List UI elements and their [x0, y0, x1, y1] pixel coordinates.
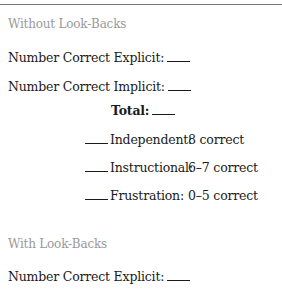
- field-label: Number Correct Explicit:: [8, 269, 164, 284]
- blank-answer-line[interactable]: [152, 103, 175, 115]
- total-label: Total:: [111, 103, 149, 118]
- level-criteria: 6–7 correct: [188, 160, 258, 175]
- top-divider: [0, 4, 282, 5]
- level-name: Instructional:: [110, 160, 188, 176]
- blank-answer-line[interactable]: [167, 50, 190, 62]
- blank-answer-line[interactable]: [167, 269, 190, 281]
- checkbox-line[interactable]: [85, 188, 108, 200]
- field-label: Number Correct Explicit:: [8, 50, 164, 65]
- level-criteria: 0–5 correct: [188, 188, 258, 203]
- field-implicit-without: Number Correct Implicit:: [8, 79, 191, 95]
- field-explicit-without: Number Correct Explicit:: [8, 50, 190, 66]
- field-explicit-with: Number Correct Explicit:: [8, 269, 190, 285]
- blank-answer-line[interactable]: [168, 79, 191, 91]
- section-heading-with-lookbacks: With Look-Backs: [8, 236, 107, 252]
- level-criteria: 8 correct: [188, 132, 244, 147]
- checkbox-line[interactable]: [85, 160, 108, 172]
- level-independent: Independent:8 correct: [85, 132, 244, 148]
- level-name: Frustration:: [110, 188, 188, 204]
- total-field: Total:: [111, 103, 175, 119]
- level-name: Independent:: [110, 132, 188, 148]
- field-label: Number Correct Implicit:: [8, 79, 165, 94]
- level-frustration: Frustration:0–5 correct: [85, 188, 258, 204]
- section-heading-without-lookbacks: Without Look-Backs: [8, 16, 126, 32]
- checkbox-line[interactable]: [85, 132, 108, 144]
- level-instructional: Instructional:6–7 correct: [85, 160, 258, 176]
